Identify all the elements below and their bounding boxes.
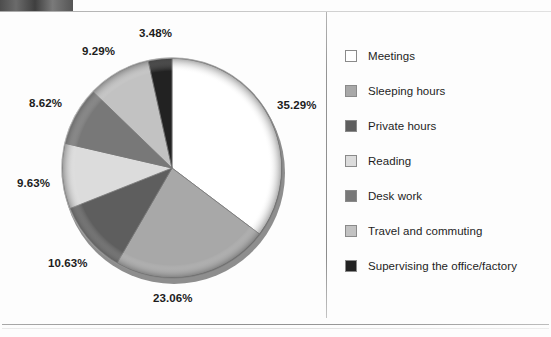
legend-item-label: Travel and commuting (368, 225, 482, 237)
legend-item-label: Desk work (368, 190, 422, 202)
legend-swatch-icon (345, 50, 357, 62)
legend-item[interactable]: Private hours (345, 108, 545, 143)
pie-chart-svg (0, 0, 326, 337)
pie-percentage-label: 35.29% (277, 99, 317, 111)
legend-item-label: Supervising the office/factory (368, 260, 517, 272)
pie-percentage-label: 3.48% (139, 27, 172, 39)
legend-swatch-icon (345, 120, 357, 132)
legend-item-label: Private hours (368, 120, 436, 132)
legend-item-label: Reading (368, 155, 411, 167)
legend-swatch-icon (345, 85, 357, 97)
vertical-divider (326, 12, 327, 318)
legend-item-label: Sleeping hours (368, 85, 445, 97)
legend-swatch-icon (345, 225, 357, 237)
legend-item[interactable]: Sleeping hours (345, 73, 545, 108)
pie-percentage-label: 8.62% (29, 97, 62, 109)
legend-swatch-icon (345, 190, 357, 202)
pie-percentage-label: 23.06% (153, 292, 193, 304)
legend-swatch-icon (345, 260, 357, 272)
pie-percentage-label: 10.63% (48, 257, 88, 269)
pie-percentage-label: 9.63% (17, 177, 50, 189)
legend-item[interactable]: Meetings (345, 38, 545, 73)
chart-page: 35.29%23.06%10.63%9.63%8.62%9.29%3.48% M… (0, 0, 551, 337)
pie-percentage-label: 9.29% (82, 45, 115, 57)
chart-legend: MeetingsSleeping hoursPrivate hoursReadi… (345, 38, 545, 283)
legend-item[interactable]: Reading (345, 143, 545, 178)
legend-item[interactable]: Travel and commuting (345, 213, 545, 248)
legend-swatch-icon (345, 155, 357, 167)
legend-item-label: Meetings (368, 50, 415, 62)
pie-chart: 35.29%23.06%10.63%9.63%8.62%9.29%3.48% (0, 0, 326, 337)
legend-item[interactable]: Desk work (345, 178, 545, 213)
legend-item[interactable]: Supervising the office/factory (345, 248, 545, 283)
pie-edge-shading (62, 58, 282, 278)
